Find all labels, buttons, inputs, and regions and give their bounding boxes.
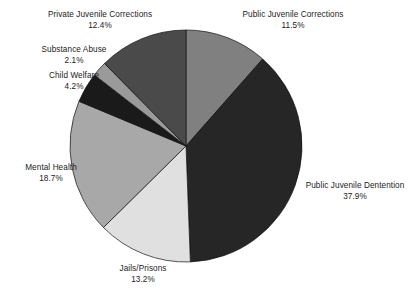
- slice-label-percent: 12.4%: [22, 21, 178, 32]
- slice-label-percent: 4.2%: [14, 82, 134, 93]
- slice-label-name: Mental Health: [1, 163, 101, 174]
- slice-label-percent: 37.9%: [294, 192, 410, 203]
- slice-label-percent: 11.5%: [218, 21, 368, 32]
- slice-label-percent: 13.2%: [88, 275, 198, 286]
- slice-label-jails-prisons: Jails/Prisons 13.2%: [88, 264, 198, 285]
- slice-label-name: Child Welfare: [14, 71, 134, 82]
- slice-label-substance-abuse: Substance Abuse 2.1%: [14, 45, 134, 66]
- slice-label-name: Substance Abuse: [14, 45, 134, 56]
- slice-label-percent: 18.7%: [1, 174, 101, 185]
- slice-label-mental-health: Mental Health 18.7%: [1, 163, 101, 184]
- slice-label-name: Private Juvenile Corrections: [22, 10, 178, 21]
- slice-label-public-juvenile-dentention: Public Juvenile Dentention 37.9%: [294, 181, 410, 202]
- slice-label-name: Public Juvenile Dentention: [294, 181, 410, 192]
- slice-label-private-juvenile-corrections: Private Juvenile Corrections 12.4%: [22, 10, 178, 31]
- slice-label-name: Public Juvenile Corrections: [218, 10, 368, 21]
- slice-label-public-juvenile-corrections: Public Juvenile Corrections 11.5%: [218, 10, 368, 31]
- slice-label-child-welfare: Child Welfare 4.2%: [14, 71, 134, 92]
- pie-chart: Private Juvenile Corrections 12.4% Publi…: [0, 0, 410, 298]
- slice-label-name: Jails/Prisons: [88, 264, 198, 275]
- slice-label-percent: 2.1%: [14, 56, 134, 67]
